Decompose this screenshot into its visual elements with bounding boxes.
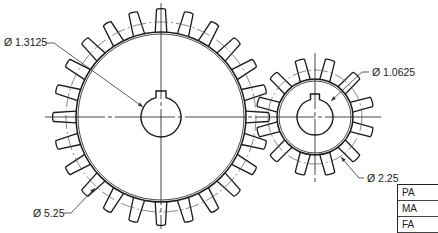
title-block-row-part: PA [398,185,438,201]
large-bore-arrowhead-icon [138,103,143,107]
large-bore-leader-line [46,43,143,107]
large-pitch-leader-line [64,188,95,213]
title-block-table: PA MA FA [397,184,438,233]
large-bore-diameter-label: Ø 1.3125 [4,37,47,48]
large-pitch-diameter-label: Ø 5.25 [33,208,65,219]
title-block-row-material: MA [398,201,438,217]
small-bore-diameter-label: Ø 1.0625 [372,67,415,78]
title-block-row-finish: FA [398,217,438,233]
small-pitch-diameter-label: Ø 2.25 [367,173,399,184]
